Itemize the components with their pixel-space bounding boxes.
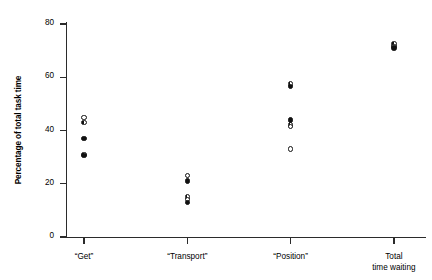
y-tick-label-wrap: 40 [0,126,66,136]
x-tick-mark [393,238,394,244]
data-point [391,45,396,50]
x-tick-mark [290,238,291,244]
y-tick-label-wrap: 20 [0,179,66,189]
y-tick-label: 80 [30,19,54,27]
y-tick-label: 40 [30,126,54,134]
y-tick-label-wrap: 80 [0,19,66,29]
data-point [81,136,86,141]
x-axis-line [66,237,426,238]
data-point [185,178,190,183]
y-tick-label-wrap: 60 [0,72,66,82]
x-axis-category-label: “Position” [241,252,341,263]
y-tick-label: 0 [30,232,54,240]
data-point [288,146,293,151]
x-axis-category-label: “Get” [34,252,134,263]
scatter-chart: Percentage of total task time 020406080 … [0,0,432,280]
y-tick-label: 20 [30,179,54,187]
data-point [288,84,293,89]
data-point [185,200,190,205]
x-axis-category-label: Total time waiting [344,252,432,273]
y-tick-label-wrap: 0 [0,232,66,242]
data-point [81,120,86,125]
x-tick-mark [187,238,188,244]
x-axis-category-label: “Transport” [137,252,237,263]
data-point [288,124,293,129]
data-point [81,153,86,158]
x-tick-mark [83,238,84,244]
y-tick-label: 60 [30,72,54,80]
